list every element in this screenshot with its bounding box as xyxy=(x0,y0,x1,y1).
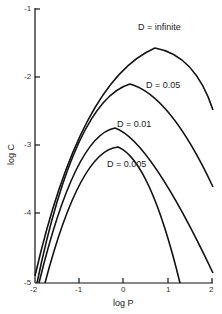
x-tick: -1 xyxy=(75,285,82,294)
x-tick: 1 xyxy=(166,285,170,294)
legend-d-infinite: D = infinite xyxy=(138,22,181,32)
legend-d-0.05: D = 0.05 xyxy=(146,80,180,90)
legend-d-0.005: D = 0.005 xyxy=(107,159,146,169)
y-tick: -3 xyxy=(24,140,31,149)
legend-d-0.01: D = 0.01 xyxy=(117,119,151,129)
y-tick: -4 xyxy=(24,208,31,217)
x-tick: 2 xyxy=(209,285,213,294)
x-tick: 0 xyxy=(121,285,125,294)
y-tick: -1 xyxy=(24,4,31,13)
y-axis-label: log C xyxy=(6,144,16,165)
plot-area xyxy=(0,0,222,314)
x-tick: -2 xyxy=(30,285,37,294)
chart: D = infinite D = 0.05 D = 0.01 D = 0.005… xyxy=(0,0,222,314)
y-tick: -2 xyxy=(24,72,31,81)
x-axis-label: log P xyxy=(113,298,134,308)
curve-d-0.05 xyxy=(37,84,213,283)
